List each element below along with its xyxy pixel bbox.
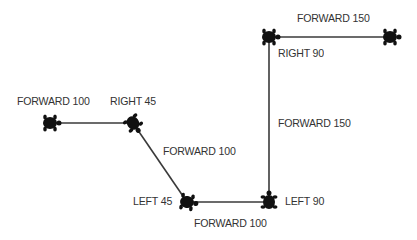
turtle-icon bbox=[383, 29, 402, 46]
turtle-path-diagram bbox=[0, 0, 417, 240]
label-forward-100-start: FORWARD 100 bbox=[17, 95, 90, 107]
label-forward-150-vertical: FORWARD 150 bbox=[278, 117, 351, 129]
label-right-45: RIGHT 45 bbox=[110, 95, 156, 107]
turtle-icon bbox=[179, 192, 200, 212]
label-left-90: LEFT 90 bbox=[285, 195, 324, 207]
turtle-icon bbox=[262, 29, 281, 46]
label-left-45: LEFT 45 bbox=[133, 195, 172, 207]
path-segment-forward-2 bbox=[133, 123, 187, 202]
turtle-icon bbox=[43, 115, 62, 132]
label-forward-150-top: FORWARD 150 bbox=[297, 12, 370, 24]
turtle-icon bbox=[122, 112, 147, 137]
label-right-90: RIGHT 90 bbox=[278, 47, 324, 59]
label-forward-100-bottom: FORWARD 100 bbox=[194, 217, 267, 229]
label-forward-100-diagonal: FORWARD 100 bbox=[163, 145, 236, 157]
turtle-icon bbox=[261, 191, 278, 210]
